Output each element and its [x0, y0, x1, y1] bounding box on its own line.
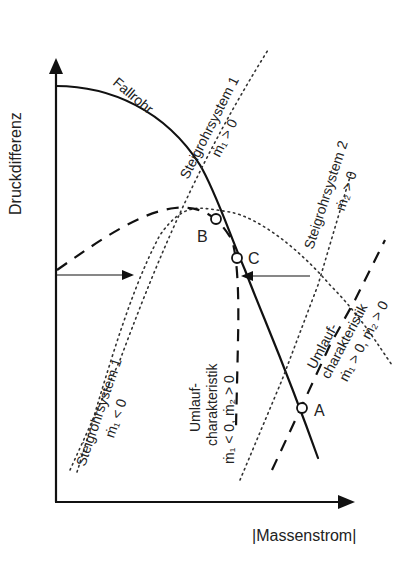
point-a-label: A [314, 402, 325, 419]
x-axis-arrow-icon [338, 495, 355, 509]
point-A: A [297, 402, 325, 419]
point-b-marker [211, 214, 221, 224]
point-c-marker [232, 253, 242, 263]
y-axis-label: Druckdifferenz [7, 112, 24, 215]
y-axis-arrow-icon [49, 58, 63, 74]
point-a-marker [297, 403, 307, 413]
point-b-label: B [197, 228, 208, 245]
fallrohr-label: Fallrohr [110, 74, 157, 117]
x-axis-label: |Massenstrom| [252, 527, 356, 544]
umlauf-neg-label-1: Umlauf- [187, 383, 203, 432]
point-C: C [232, 250, 260, 267]
point-c-label: C [248, 250, 260, 267]
umlauf-neg-label-2: charakteristik [204, 363, 220, 446]
druckdifferenz-massenstrom-diagram: Druckdifferenz |Massenstrom| Fallrohr St… [0, 0, 419, 561]
point-B: B [197, 214, 221, 245]
umlauf-neg-condition: ṁ₁ < 0, ṁ₂ > 0 [221, 375, 237, 464]
steigrohr2-pos-curve [240, 170, 352, 480]
